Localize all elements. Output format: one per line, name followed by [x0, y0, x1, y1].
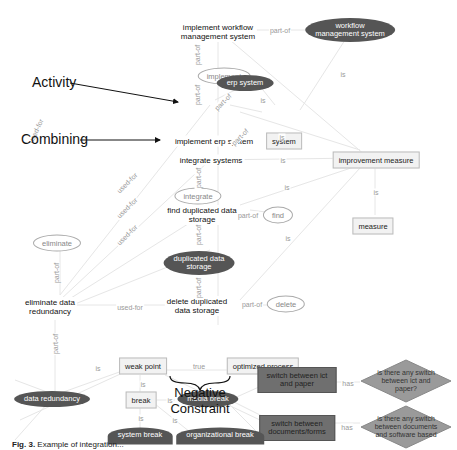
edge-label-has: has [341, 380, 354, 387]
node-erp-system[interactable]: erp system [217, 75, 274, 91]
node-label: organizational break [186, 430, 254, 439]
node-label: storage [167, 215, 236, 224]
node-label: documents/forms [268, 428, 326, 436]
annotation-line: Negative [170, 385, 229, 401]
node-label: redundancy [25, 307, 75, 316]
edge-label-is: is [171, 417, 178, 424]
node-label: erp system [227, 78, 264, 87]
edge-label-is: is [94, 365, 101, 372]
node-data-redundancy[interactable]: data redundancy [14, 391, 90, 407]
edge-label-part-of: part-of [195, 224, 202, 246]
node-label: eliminate data [25, 298, 75, 307]
node-switch-between-documents-forms[interactable]: switch between documents/forms [259, 415, 335, 441]
edge-label-is: is [137, 415, 144, 422]
node-label: delete [276, 300, 296, 309]
node-label: find duplicated data [167, 206, 236, 215]
node-label: data storage [167, 306, 228, 315]
node-label: is there any switchbetween documentsand … [360, 405, 452, 449]
node-eliminate-data-redundancy[interactable]: eliminate data redundancy [23, 297, 77, 317]
edge-label-part-of: part-of [241, 301, 263, 308]
edge-label-is: is [279, 157, 286, 164]
node-label: storage [174, 263, 225, 271]
edge-label-is: is [339, 71, 346, 78]
edge-label-part-of: part-of [237, 212, 259, 219]
node-label: find [272, 211, 284, 220]
node-eliminate[interactable]: eliminate [33, 235, 81, 252]
edge-label-is: is [278, 134, 285, 141]
edge-label-part-of: part-of [195, 277, 202, 299]
annotation-activity: Activity [32, 74, 76, 90]
node-integrate[interactable]: integrate [174, 188, 221, 205]
edge-label-part-of: part-of [195, 167, 202, 189]
edge-label-part-of: part-of [52, 333, 59, 355]
node-switch-between-ict-and-paper[interactable]: switch between ict and paper [258, 367, 337, 393]
annotation-negative-constraint: Negative Constraint [170, 385, 229, 417]
edge-label-part-of: part-of [53, 262, 60, 284]
edge-label-has: has [340, 424, 353, 431]
edge-label-true: true [192, 363, 206, 370]
node-label: implement workflow [181, 23, 255, 32]
node-integrate-systems[interactable]: integrate systems [178, 155, 245, 166]
node-label: is there any switchbetween ict andpaper? [360, 359, 452, 403]
edge-label-is: is [284, 235, 291, 242]
node-label: management system [181, 32, 255, 41]
node-workflow-management-system[interactable]: workflow management system [305, 18, 395, 42]
node-find[interactable]: find [263, 207, 293, 224]
edge-label-is: is [259, 97, 266, 104]
node-label: integrate systems [180, 156, 243, 165]
node-break[interactable]: break [126, 392, 157, 409]
node-label: break [132, 396, 151, 405]
edge-label-part-of: part-of [194, 84, 201, 106]
node-improvement-measure[interactable]: improvement measure [333, 152, 420, 169]
node-organizational-break[interactable]: organizational break [176, 428, 264, 445]
caption-text: Example of integration... [37, 440, 123, 449]
edge-label-is: is [372, 189, 379, 196]
edge-label-is: is [283, 184, 290, 191]
node-label: data redundancy [24, 394, 80, 403]
node-label: and paper [267, 380, 328, 388]
node-label: measure [358, 222, 387, 231]
node-duplicated-data-storage[interactable]: duplicated data storage [164, 251, 235, 275]
node-implement-workflow-management-system[interactable]: implement workflow management system [179, 22, 257, 42]
caption-prefix: Fig. 3. [12, 440, 35, 449]
node-weak-point[interactable]: weak point [119, 358, 167, 375]
figure-caption: Fig. 3. Example of integration... [12, 440, 124, 449]
annotation-line: Constraint [170, 401, 229, 417]
node-label: weak point [125, 362, 161, 371]
annotation-combining: Combining [21, 131, 88, 147]
node-find-duplicated-data-storage[interactable]: find duplicated data storage [165, 205, 238, 225]
node-label: system break [118, 430, 163, 439]
node-label: eliminate [42, 239, 72, 248]
node-label: management system [315, 30, 385, 38]
node-label: improvement measure [339, 156, 414, 165]
edge-label-is: is [139, 381, 146, 388]
edge-label-used-for: used-for [116, 304, 144, 311]
node-question-ict-paper[interactable]: is there any switchbetween ict andpaper? [360, 359, 452, 403]
node-question-documents-software[interactable]: is there any switchbetween documentsand … [360, 405, 452, 449]
edge-label-part-of: part-of [194, 44, 201, 66]
node-label: integrate [183, 192, 212, 201]
node-measure[interactable]: measure [352, 218, 393, 235]
edge-label-part-of: part-of [269, 27, 291, 34]
